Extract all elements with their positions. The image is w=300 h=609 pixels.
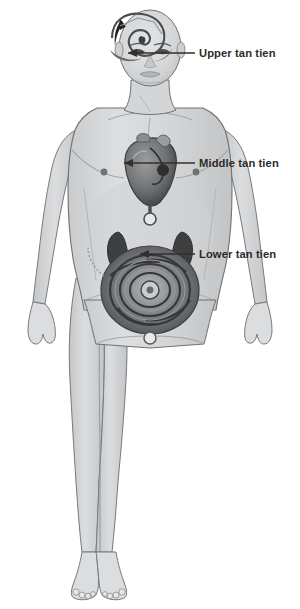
lower-dantian-core	[147, 287, 154, 294]
feet	[71, 552, 126, 600]
heart-focus-point	[157, 164, 169, 176]
human-figure	[28, 8, 272, 600]
upper-tan-tien-label: Upper tan tien	[199, 47, 276, 59]
tan-tien-diagram: Upper tan tien Middle tan tien Lower tan…	[0, 0, 300, 609]
spiral-center	[139, 37, 146, 44]
right-nipple	[193, 169, 200, 176]
diagram-canvas: Upper tan tien Middle tan tien Lower tan…	[0, 0, 300, 609]
aortic-arch	[137, 133, 150, 142]
navel	[144, 332, 156, 344]
head	[110, 8, 186, 86]
middle-tan-tien-label: Middle tan tien	[199, 157, 279, 169]
right-ear	[177, 42, 185, 58]
left-nipple	[101, 169, 108, 176]
lower-tan-tien-label: Lower tan tien	[199, 248, 276, 260]
left-hand	[28, 302, 55, 344]
solar-plexus-ring	[144, 213, 156, 225]
right-hand	[245, 302, 272, 344]
